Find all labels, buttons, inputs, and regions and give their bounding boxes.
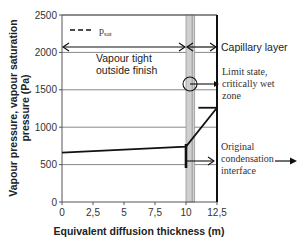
limit-state-label-3: zone [222, 90, 241, 101]
x-tick-label: 0 [59, 207, 65, 218]
y-tick-label: 0 [51, 197, 57, 208]
x-axis-title: Equivalent diffusion thickness (m) [54, 225, 225, 237]
vapour-tight-label-2: outside finish [96, 64, 157, 76]
legend-label: psat [99, 25, 112, 38]
original-condensation-label-3: interface [221, 165, 257, 176]
y-tick-label: 2500 [35, 10, 58, 21]
capillary-band-rect [186, 15, 195, 202]
svg-text:pressure (Pa): pressure (Pa) [19, 74, 31, 141]
x-tick-label: 7,5 [148, 207, 162, 218]
x-tick-label: 5 [121, 207, 127, 218]
original-condensation-label-1: Original [221, 141, 255, 152]
y-tick-label: 1500 [35, 84, 58, 95]
y-tick-label: 1000 [35, 122, 58, 133]
arrowhead-icon [290, 158, 297, 165]
chart: 05001000150020002500 02,557,51012,5 psat… [0, 0, 306, 242]
svg-text:Vapour pressure, vapour satura: Vapour pressure, vapour saturation [7, 19, 19, 196]
original-condensation-label-2: condensation [221, 153, 274, 164]
x-tick-label: 10 [180, 207, 192, 218]
limit-state-label-2: critically wet [222, 78, 275, 89]
capillary-layer-label: Capillary layer [221, 41, 288, 53]
y-tick-labels: 05001000150020002500 [35, 10, 62, 208]
y-axis-title: Vapour pressure, vapour saturation press… [7, 19, 31, 196]
vapour-tight-label-1: Vapour tight [96, 52, 152, 64]
y-tick-label: 500 [40, 159, 57, 170]
x-tick-label: 12,5 [207, 207, 227, 218]
legend: psat [70, 25, 112, 38]
y-tick-label: 2000 [35, 47, 58, 58]
x-tick-labels: 02,557,51012,5 [59, 202, 227, 218]
limit-state-label-1: Limit state, [222, 66, 268, 77]
x-tick-label: 2,5 [86, 207, 100, 218]
capillary-layer-band [186, 15, 195, 202]
